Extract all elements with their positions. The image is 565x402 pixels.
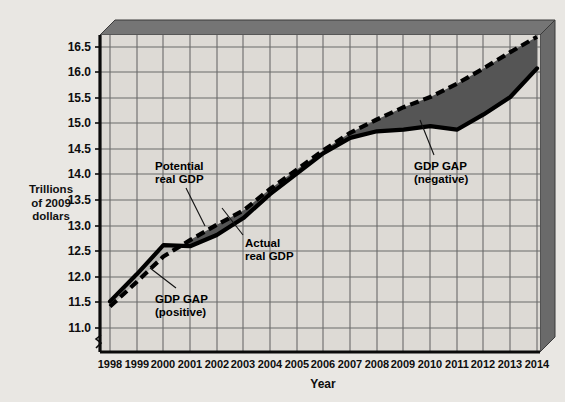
annotation-potential-real-gdp: Potential real GDP [155, 160, 204, 186]
x-tick-label: 2014 [517, 358, 557, 370]
annotation-line: real GDP [155, 173, 204, 186]
y-tick-label: 13.0 [55, 219, 91, 233]
y-tick-label: 15.0 [55, 116, 91, 130]
annotation-line: real GDP [245, 250, 294, 263]
y-tick-label: 11.5 [55, 295, 91, 309]
annotation-gdp-gap-positive: GDP GAP (positive) [155, 293, 208, 319]
annotation-line: Actual [245, 237, 294, 250]
y-tick-label: 12.5 [55, 244, 91, 258]
y-tick-label: 14.0 [55, 167, 91, 181]
annotation-line: (negative) [414, 173, 468, 186]
annotation-line: (positive) [155, 306, 208, 319]
annotation-line: GDP GAP [155, 293, 208, 306]
y-tick-label: 15.5 [55, 91, 91, 105]
frame-3d-right [540, 20, 555, 352]
annotation-line: Potential [155, 160, 204, 173]
y-tick-label: 13.5 [55, 193, 91, 207]
annotation-actual-real-gdp: Actual real GDP [245, 237, 294, 263]
y-tick-label: 16.5 [55, 40, 91, 54]
y-tick-label: 11.0 [55, 321, 91, 335]
y-tick-label: 14.5 [55, 142, 91, 156]
y-tick-label: 12.0 [55, 270, 91, 284]
x-axis-title: Year [293, 377, 353, 391]
annotation-gdp-gap-negative: GDP GAP (negative) [414, 160, 468, 186]
y-tick-label: 16.0 [55, 65, 91, 79]
frame-3d-top [100, 20, 555, 35]
annotation-line: GDP GAP [414, 160, 468, 173]
